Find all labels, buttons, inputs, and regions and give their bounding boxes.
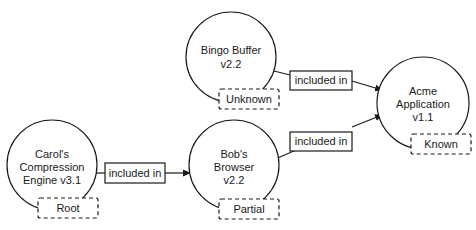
dependency-diagram: Bingo Buffer v2.2 Unknown Acme Applicati… (0, 0, 476, 230)
node-bobs-browser[interactable]: Bob's Browser v2.2 Partial (189, 120, 279, 219)
node-label-line: v2.2 (221, 58, 242, 70)
node-label-line: Engine v3.1 (23, 174, 81, 186)
node-label-line: v1.1 (413, 111, 434, 123)
node-label-line: Application (396, 98, 450, 110)
edge-label-carol-bob: included in (105, 163, 165, 183)
svg-text:included in: included in (109, 167, 162, 179)
node-acme-application[interactable]: Acme Application v1.1 Known (377, 57, 471, 154)
svg-text:included in: included in (295, 135, 348, 147)
node-bingo-buffer[interactable]: Bingo Buffer v2.2 Unknown (186, 12, 279, 109)
node-label-line: Browser (214, 161, 255, 173)
status-badge: Partial (233, 203, 264, 215)
edge-label-bingo-acme: included in (290, 71, 352, 90)
node-label-line: Carol's (35, 148, 69, 160)
node-label-line: Bob's (220, 148, 248, 160)
status-badge: Root (56, 202, 79, 214)
status-badge: Known (424, 138, 458, 150)
svg-text:included in: included in (295, 74, 348, 86)
node-label-line: Acme (409, 85, 437, 97)
node-label-line: Compression (20, 161, 85, 173)
status-badge: Unknown (226, 93, 272, 105)
node-label-line: v2.2 (224, 174, 245, 186)
node-carols-compression-engine[interactable]: Carol's Compression Engine v3.1 Root (7, 120, 98, 218)
node-label-line: Bingo Buffer (201, 44, 262, 56)
edge-label-bob-acme: included in (290, 132, 352, 151)
